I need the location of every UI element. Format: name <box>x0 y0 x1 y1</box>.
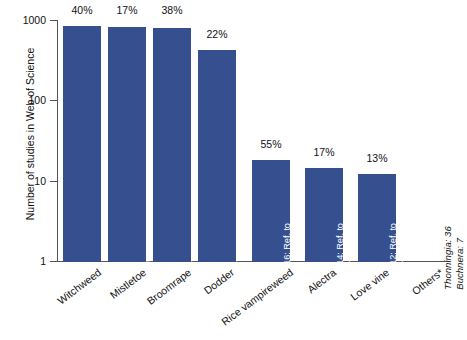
plot-area: 40% Total: 681; Reference to Africa: 374… <box>57 20 450 262</box>
bar-value-line2: Africa: 9 <box>346 239 356 272</box>
bar-rice-vampireweed[interactable]: Total: 16; Ref. toAfrica: 16 <box>252 160 290 262</box>
others-entry-thonningia: Thonningia: 36 <box>442 226 453 289</box>
bar-value-line1: Total: 12; Ref. to <box>388 223 398 289</box>
x-label-others: Others* <box>410 266 446 297</box>
bar-mistletoe[interactable]: Total: 612; Reference to Africa: 69 <box>108 27 146 262</box>
bar-value-line1: Total: 14; Ref. to <box>335 223 345 289</box>
bar-broomrape[interactable]: Total: 664; Reference to Africa: 36 <box>153 28 191 262</box>
bar-percent-label: 38% <box>142 4 202 16</box>
bar-alectra[interactable]: Total: 14; Ref. toAfrica: 9 <box>305 168 343 262</box>
bar-value-line2: Africa: 0 <box>399 239 409 272</box>
bar-witchweed[interactable]: Total: 681; Reference to Africa: 374 <box>63 26 101 262</box>
y-tick-label-1: 1 <box>40 255 46 267</box>
y-tick-label-100: 100 <box>28 94 46 106</box>
bar-percent-label: 55% <box>241 138 301 150</box>
bar-value-label: Total: 14; Ref. toAfrica: 9 <box>335 223 357 289</box>
y-tick-10 <box>50 181 57 182</box>
bar-percent-label: 13% <box>347 152 407 164</box>
y-tick-100 <box>50 100 57 101</box>
bar-love-vine[interactable]: Total: 12; Ref. toAfrica: 0 <box>358 174 396 262</box>
bar-dodder[interactable]: Total: 267; Reference to Africa: 14 <box>198 50 236 262</box>
bar-value-label: Total: 12; Ref. toAfrica: 0 <box>388 223 410 289</box>
bar-percent-label: 22% <box>187 28 247 40</box>
x-label-text: Alectra <box>305 266 338 295</box>
x-label-alectra: Alectra <box>305 266 338 295</box>
bar-percent-label: 17% <box>294 146 354 158</box>
y-tick-label-1000: 1000 <box>23 14 46 26</box>
bar-value-line2: Africa: 16 <box>293 237 303 275</box>
y-axis-title: Number of studies in Web of Science <box>24 9 36 259</box>
y-tick-label-10: 10 <box>34 175 46 187</box>
y-tick-1 <box>50 261 57 262</box>
bar-chart: Number of studies in Web of Science 1000… <box>0 0 467 340</box>
x-label-text: Witchweed <box>55 266 103 306</box>
x-label-text: Others* <box>410 266 446 297</box>
others-entry-buchnera: Buchnera: 7 <box>454 238 465 290</box>
others-annotation: Thonningia: 36Buchnera: 7 <box>442 226 466 289</box>
x-label-witchweed: Witchweed <box>55 266 103 306</box>
y-tick-1000 <box>50 20 57 21</box>
